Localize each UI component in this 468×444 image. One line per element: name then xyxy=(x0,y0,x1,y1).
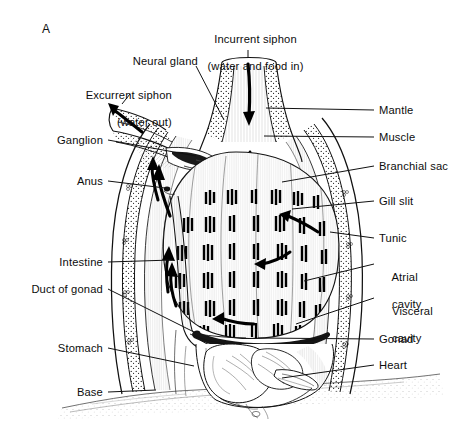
label-duct-of-gonad: Duct of gonad xyxy=(0,283,103,296)
label-visceral-cavity: Visceral cavity xyxy=(379,292,468,358)
label-neural-gland: Neural gland xyxy=(0,55,198,68)
label-branchial-sac: Branchial sac xyxy=(379,160,468,173)
label-muscle: Muscle xyxy=(379,131,468,144)
leader-gonad xyxy=(258,338,374,339)
label-anus: Anus xyxy=(0,175,103,188)
label-ganglion: Ganglion xyxy=(0,134,103,147)
label-incurrent-siphon: Incurrent siphon (water and food in) xyxy=(178,20,320,86)
label-stomach: Stomach xyxy=(0,342,103,355)
label-tunic: Tunic xyxy=(379,232,468,245)
label-intestine: Intestine xyxy=(0,256,103,269)
label-incurrent-siphon-line2: (water and food in) xyxy=(207,60,303,72)
label-gonad: Gonad xyxy=(379,333,468,346)
leader-intestine xyxy=(108,260,172,262)
label-gill-slit: Gill slit xyxy=(379,195,468,208)
anatomy-figure: A Incurrent siphon (water and food in) N… xyxy=(0,0,468,444)
label-visceral-cavity-line1: Visceral xyxy=(392,305,433,317)
label-excurrent-siphon: Excurrent siphon (water out) xyxy=(0,76,172,142)
label-mantle: Mantle xyxy=(379,104,468,117)
label-base: Base xyxy=(0,386,103,399)
label-atrial-cavity-line1: Atrial xyxy=(391,271,417,283)
panel-label-a: A xyxy=(42,22,50,36)
label-excurrent-siphon-line1: Excurrent siphon xyxy=(86,89,172,101)
label-heart: Heart xyxy=(379,359,468,372)
label-incurrent-siphon-line1: Incurrent siphon xyxy=(214,33,297,45)
leader-base xyxy=(108,390,156,392)
label-excurrent-siphon-line2: (water out) xyxy=(117,116,172,128)
